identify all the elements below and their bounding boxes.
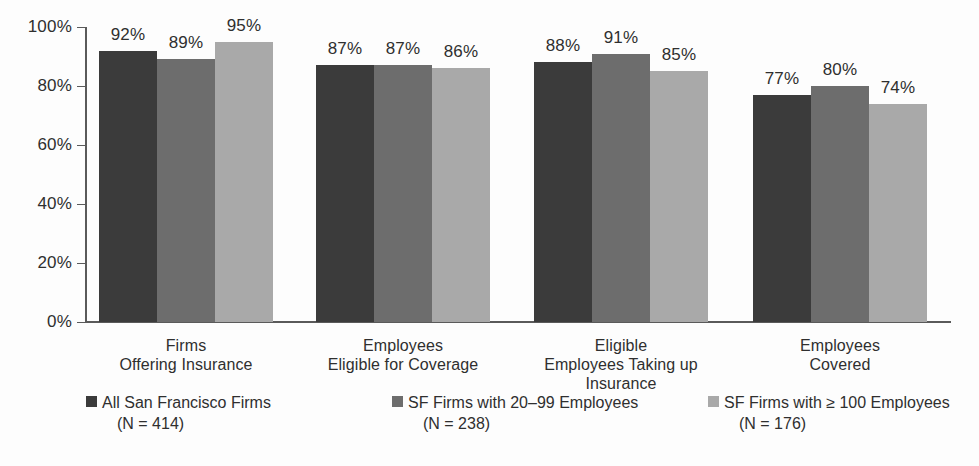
legend-color-swatch [708,396,719,407]
y-axis-tick-label: 80% [0,77,72,94]
legend-sample-size: (N = 176) [739,413,806,434]
bar [534,62,592,322]
bar-value-label: 89% [151,34,221,51]
bar-value-label: 95% [209,17,279,34]
category-label-line: Eligible [506,336,736,355]
y-axis-tick-label: 60% [0,136,72,153]
y-axis-tick [77,27,86,28]
category-label-line: Employees [725,336,955,355]
y-axis-tick-label: 0% [0,313,72,330]
category-label-line: Insurance [506,374,736,393]
x-axis-category-label: EligibleEmployees Taking upInsurance [506,336,736,393]
y-axis-tick [77,263,86,264]
category-label-line: Eligible for Coverage [288,355,518,374]
legend-sample-size: (N = 238) [423,413,490,434]
y-axis-tick-label: 100% [0,18,72,35]
bar [650,71,708,322]
bar [432,68,490,322]
bar-chart: 0%20%40%60%80%100% 92%89%95%87%87%86%88%… [0,0,979,466]
bar-value-label: 74% [863,79,933,96]
y-axis-tick-label: 40% [0,195,72,212]
legend-color-swatch [86,396,97,407]
bar-value-label: 91% [586,29,656,46]
category-label-line: Employees Taking up [506,355,736,374]
bar [592,54,650,322]
legend-sample-size: (N = 414) [117,413,184,434]
bar [753,95,811,322]
legend-label: SF Firms with 20–99 Employees [408,392,638,413]
legend-label: All San Francisco Firms [102,392,271,413]
x-axis-category-label: EmployeesCovered [725,336,955,374]
bar [869,104,927,322]
category-label-line: Offering Insurance [71,355,301,374]
bar [99,51,157,322]
y-axis-tick [77,322,86,323]
x-axis-category-label: EmployeesEligible for Coverage [288,336,518,374]
bar [811,86,869,322]
y-axis-tick [77,86,86,87]
y-axis-tick [77,145,86,146]
y-axis-tick-label: 20% [0,254,72,271]
bar [374,65,432,322]
bar-value-label: 85% [644,46,714,63]
legend: All San Francisco Firms(N = 414)SF Firms… [86,392,966,452]
y-axis-tick [77,204,86,205]
x-axis-category-label: FirmsOffering Insurance [71,336,301,374]
bar [215,42,273,322]
bar [157,59,215,322]
bar-value-label: 86% [426,43,496,60]
bar-value-label: 80% [805,61,875,78]
legend-label: SF Firms with ≥ 100 Employees [724,392,950,413]
category-label-line: Employees [288,336,518,355]
category-label-line: Covered [725,355,955,374]
category-label-line: Firms [71,336,301,355]
bar [316,65,374,322]
legend-color-swatch [392,396,403,407]
